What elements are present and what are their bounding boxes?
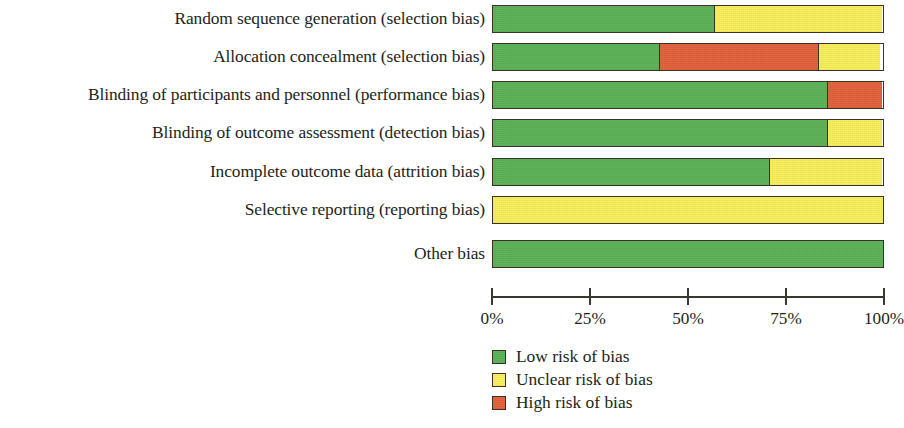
bar-row: Other bias: [0, 240, 902, 268]
legend-swatch-low-icon: [492, 350, 506, 364]
stacked-bar: [492, 240, 884, 268]
bar-row: Blinding of participants and personnel (…: [0, 81, 902, 109]
stacked-bar: [492, 5, 884, 33]
legend-label: Low risk of bias: [516, 348, 630, 365]
axis-tick: [589, 288, 591, 305]
bar-segment-unclear: [769, 159, 882, 185]
stacked-bar: [492, 43, 884, 71]
bar-row: Selective reporting (reporting bias): [0, 196, 902, 224]
bar-segment-low: [493, 241, 883, 267]
stacked-bar: [492, 196, 884, 224]
axis-tick-label: 25%: [574, 310, 606, 327]
bar-segment-unclear: [818, 44, 880, 70]
axis-tick: [883, 288, 885, 305]
bar-segment-high: [659, 44, 819, 70]
x-axis: 0%25%50%75%100%: [492, 296, 884, 297]
legend-item-low: Low risk of bias: [492, 345, 832, 368]
legend: Low risk of biasUnclear risk of biasHigh…: [492, 345, 832, 414]
bar-row: Random sequence generation (selection bi…: [0, 5, 902, 33]
axis-tick-label: 75%: [770, 310, 802, 327]
legend-label: High risk of bias: [516, 394, 632, 411]
bar-row-label: Allocation concealment (selection bias): [213, 48, 485, 65]
bar-segment-high: [827, 82, 882, 108]
bar-segment-unclear: [827, 120, 882, 146]
bar-row-label: Blinding of outcome assessment (detectio…: [152, 124, 485, 141]
bar-segment-low: [493, 82, 828, 108]
bar-segment-low: [493, 120, 828, 146]
stacked-bar: [492, 158, 884, 186]
legend-swatch-unclear-icon: [492, 373, 506, 387]
legend-swatch-high-icon: [492, 396, 506, 410]
bar-segment-low: [493, 44, 661, 70]
legend-label: Unclear risk of bias: [516, 371, 653, 388]
bar-row-label: Other bias: [414, 245, 485, 262]
axis-tick: [785, 288, 787, 305]
bar-row-label: Selective reporting (reporting bias): [245, 201, 485, 218]
bar-row: Allocation concealment (selection bias): [0, 43, 902, 71]
axis-tick-label: 100%: [864, 310, 904, 327]
bar-row: Incomplete outcome data (attrition bias): [0, 158, 902, 186]
stacked-bar: [492, 119, 884, 147]
bar-row-label: Incomplete outcome data (attrition bias): [210, 163, 485, 180]
axis-tick: [491, 288, 493, 305]
axis-tick-label: 0%: [481, 310, 504, 327]
legend-item-high: High risk of bias: [492, 391, 832, 414]
bar-row-label: Random sequence generation (selection bi…: [174, 10, 485, 27]
bar-segment-low: [493, 159, 770, 185]
legend-item-unclear: Unclear risk of bias: [492, 368, 832, 391]
bar-row: Blinding of outcome assessment (detectio…: [0, 119, 902, 147]
axis-tick: [687, 288, 689, 305]
bar-segment-unclear: [493, 197, 883, 223]
bar-segment-unclear: [714, 6, 882, 32]
axis-tick-label: 50%: [672, 310, 704, 327]
bar-segment-low: [493, 6, 715, 32]
stacked-bar: [492, 81, 884, 109]
bar-row-label: Blinding of participants and personnel (…: [88, 86, 485, 103]
